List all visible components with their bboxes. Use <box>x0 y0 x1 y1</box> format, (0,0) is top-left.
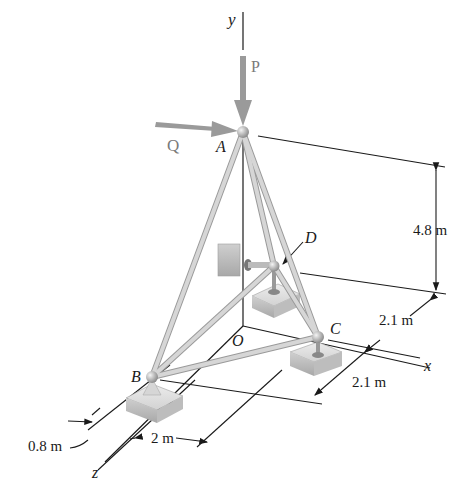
x-axis-label: x <box>423 357 431 374</box>
point-C-label: C <box>330 320 341 337</box>
point-A-label: A <box>215 138 226 155</box>
y-axis-label: y <box>226 10 236 29</box>
load-Q-arrow <box>155 121 238 137</box>
point-D-label: D <box>304 229 317 246</box>
dim-c-front: 2.1 m <box>352 374 387 390</box>
joint-D <box>269 261 280 272</box>
dim-c-back: 2.1 m <box>379 312 414 328</box>
load-P-arrow <box>234 56 252 126</box>
dim-height: 4.8 m <box>413 222 448 238</box>
joint-B <box>146 371 158 383</box>
point-B-label: B <box>131 368 141 385</box>
z-axis-label: z <box>91 464 99 481</box>
load-P-label: P <box>251 58 260 75</box>
dim-b-x: 2 m <box>151 430 174 446</box>
joint-C <box>312 331 324 343</box>
origin-label: O <box>232 332 244 349</box>
joint-A <box>237 126 249 138</box>
dim-b-left: 0.8 m <box>28 438 63 454</box>
truss-diagram: y P Q A D C B O x z 4.8 m 2.1 m 2.1 m 2 … <box>0 0 473 495</box>
load-Q-label: Q <box>167 136 179 155</box>
